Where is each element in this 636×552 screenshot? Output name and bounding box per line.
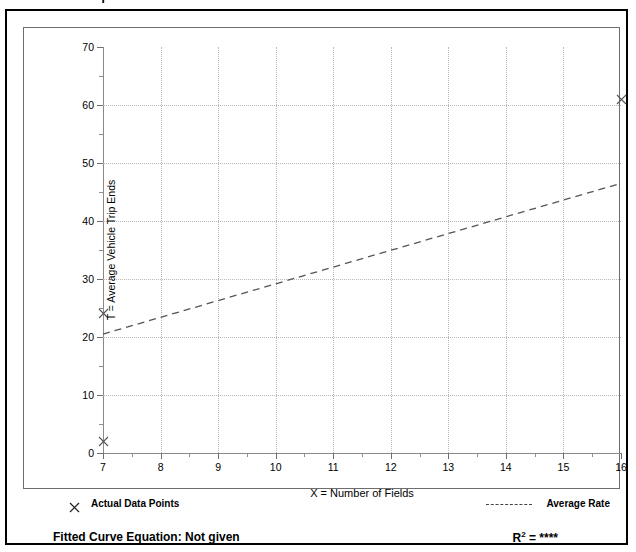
chart-legend: Actual Data Points Average Rate [23, 497, 620, 517]
plot-inner-region: 01020304050607078910111213141516 T = Ave… [103, 47, 621, 453]
x-tick-minor [304, 453, 305, 457]
x-tick-minor [420, 453, 421, 457]
x-tick-label: 14 [500, 461, 512, 473]
x-tick-label: 10 [270, 461, 282, 473]
y-tick-label: 0 [88, 447, 94, 459]
x-tick-minor [247, 453, 248, 457]
x-tick-minor [592, 453, 593, 457]
r-squared-number: = **** [529, 531, 558, 545]
x-tick-label: 13 [442, 461, 454, 473]
dashed-line-icon [486, 504, 532, 505]
fitted-curve-equation: Fitted Curve Equation: Not given [53, 530, 240, 544]
x-tick-minor [132, 453, 133, 457]
r-squared-value: R2 = **** [513, 530, 559, 545]
x-tick-major [161, 453, 162, 459]
x-tick-label: 9 [215, 461, 221, 473]
average-rate-line [103, 47, 621, 453]
page-title: Data Plot and Equation [7, 0, 142, 3]
y-tick-label: 70 [82, 41, 94, 53]
x-tick-major [218, 453, 219, 459]
y-tick-label: 20 [82, 331, 94, 343]
x-marker-icon [69, 499, 80, 510]
legend-label-average-rate: Average Rate [546, 498, 610, 509]
x-tick-label: 16 [615, 461, 627, 473]
data-point-marker [98, 436, 109, 447]
x-tick-minor [189, 453, 190, 457]
x-tick-label: 12 [385, 461, 397, 473]
y-tick-label: 60 [82, 99, 94, 111]
data-point-marker [616, 94, 627, 105]
y-tick-label: 50 [82, 157, 94, 169]
x-tick-label: 8 [158, 461, 164, 473]
x-tick-major [333, 453, 334, 459]
x-tick-major [621, 453, 622, 459]
chart-panel: 01020304050607078910111213141516 T = Ave… [5, 9, 628, 545]
y-tick-label: 10 [82, 389, 94, 401]
y-tick-label: 30 [82, 273, 94, 285]
legend-label-actual-data-points: Actual Data Points [91, 498, 179, 509]
r-squared-exponent: 2 [521, 530, 525, 539]
x-tick-minor [477, 453, 478, 457]
x-tick-major [391, 453, 392, 459]
x-tick-label: 15 [558, 461, 570, 473]
x-tick-major [448, 453, 449, 459]
y-tick-label: 40 [82, 215, 94, 227]
x-tick-label: 7 [100, 461, 106, 473]
x-tick-major [506, 453, 507, 459]
r-squared-base: R [513, 531, 522, 545]
x-tick-major [563, 453, 564, 459]
y-axis-title: T = Average Vehicle Trip Ends [105, 180, 117, 321]
x-tick-minor [535, 453, 536, 457]
x-tick-major [103, 453, 104, 459]
x-tick-major [276, 453, 277, 459]
x-tick-label: 11 [328, 461, 339, 473]
plot-area: 01020304050607078910111213141516 T = Ave… [23, 27, 620, 489]
x-tick-minor [362, 453, 363, 457]
equation-row: Fitted Curve Equation: Not given R2 = **… [23, 530, 620, 552]
